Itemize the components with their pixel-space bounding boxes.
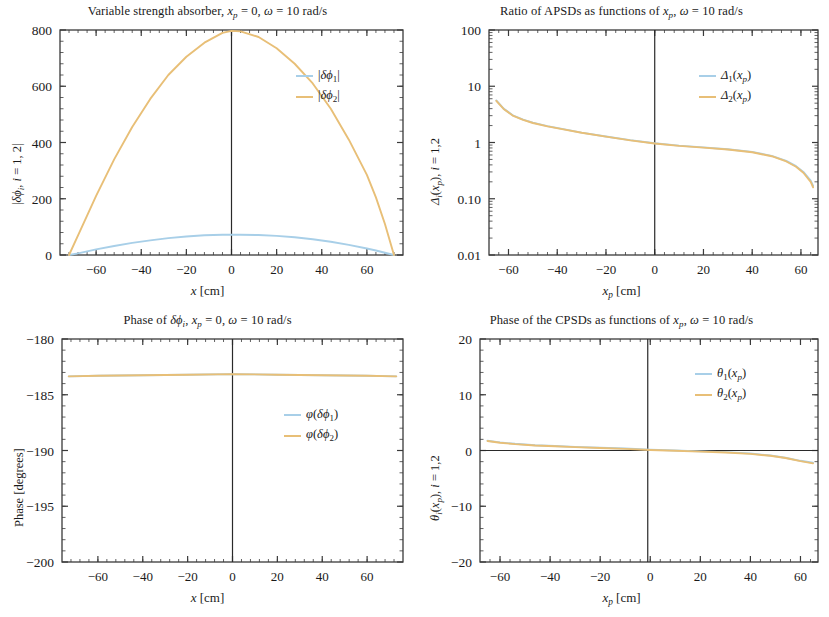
svg-text:800: 800 (32, 23, 53, 38)
svg-text:40: 40 (746, 262, 759, 277)
legend-label-series2: φ(δϕ2) (306, 425, 338, 445)
panel-bottom-right: Phase of the CPSDs as functions of xp, ω… (414, 309, 829, 617)
svg-text:−185: −185 (26, 388, 54, 403)
svg-text:0.01: 0.01 (457, 248, 481, 263)
legend-top-left: |δϕ1| |δϕ2| (296, 66, 340, 107)
legend-item: φ(δϕ2) (284, 425, 338, 445)
legend-item: Δ1(xp) (699, 66, 751, 86)
svg-text:200: 200 (32, 192, 53, 207)
svg-text:0.10: 0.10 (457, 192, 481, 207)
legend-item: |δϕ2| (296, 86, 340, 106)
legend-swatch-series1 (699, 75, 716, 77)
svg-text:−60: −60 (86, 262, 106, 277)
svg-text:−40: −40 (547, 262, 567, 277)
legend-bottom-left: φ(δϕ1) φ(δϕ2) (284, 405, 338, 446)
svg-text:40: 40 (315, 262, 328, 277)
legend-item: φ(δϕ1) (284, 405, 338, 425)
svg-text:0: 0 (651, 262, 658, 277)
svg-text:60: 60 (794, 262, 807, 277)
svg-text:100: 100 (461, 23, 482, 38)
svg-text:0: 0 (229, 569, 236, 584)
svg-text:1: 1 (474, 136, 481, 151)
svg-text:20: 20 (270, 262, 283, 277)
svg-text:−60: −60 (498, 262, 518, 277)
svg-text:0: 0 (465, 444, 472, 459)
legend-label-series1: Δ1(xp) (721, 66, 751, 86)
legend-swatch-series1 (284, 414, 301, 416)
panel-top-left: Variable strength absorber, xp = 0, ω = … (0, 0, 415, 310)
svg-text:40: 40 (316, 569, 329, 584)
svg-text:−40: −40 (540, 569, 560, 584)
svg-text:−190: −190 (26, 444, 54, 459)
svg-text:20: 20 (271, 569, 284, 584)
svg-text:0: 0 (45, 248, 52, 263)
svg-text:20: 20 (697, 262, 710, 277)
plot-canvas-top-right: −60−40−2002040600.010.10110100 (414, 0, 829, 310)
legend-label-series2: θ2(xp) (717, 384, 746, 404)
panel-bottom-left: Phase of δϕi, xp = 0, ω = 10 rad/s Phase… (0, 309, 415, 617)
legend-label-series2: |δϕ2| (318, 86, 340, 106)
plot-canvas-bottom-left: −60−40−200204060−200−195−190−185−180 (0, 309, 415, 617)
legend-item: |δϕ1| (296, 66, 340, 86)
svg-text:−20: −20 (590, 569, 610, 584)
svg-text:20: 20 (694, 569, 707, 584)
legend-label-series1: θ1(xp) (717, 364, 746, 384)
legend-swatch-series1 (695, 373, 712, 375)
plot-canvas-bottom-right: −60−40−200204060−20−1001020 (414, 309, 829, 617)
figure-grid: Variable strength absorber, xp = 0, ω = … (0, 0, 829, 617)
legend-swatch-series2 (695, 394, 712, 396)
legend-top-right: Δ1(xp) Δ2(xp) (699, 66, 751, 107)
svg-text:−195: −195 (26, 499, 54, 514)
svg-text:−180: −180 (26, 332, 54, 347)
legend-label-series2: Δ2(xp) (721, 86, 751, 106)
svg-text:−60: −60 (490, 569, 510, 584)
svg-text:−20: −20 (451, 555, 472, 570)
svg-text:60: 60 (361, 569, 374, 584)
svg-text:−20: −20 (596, 262, 616, 277)
plot-canvas-top-left: −60−40−2002040600200400600800 (0, 0, 415, 310)
svg-text:0: 0 (228, 262, 235, 277)
legend-bottom-right: θ1(xp) θ2(xp) (695, 364, 746, 405)
svg-text:60: 60 (360, 262, 373, 277)
svg-text:−20: −20 (176, 262, 196, 277)
svg-text:40: 40 (744, 569, 757, 584)
legend-swatch-series1 (296, 75, 313, 77)
legend-swatch-series2 (699, 96, 716, 98)
svg-text:20: 20 (459, 332, 473, 347)
svg-text:−20: −20 (177, 569, 197, 584)
svg-text:400: 400 (32, 136, 53, 151)
svg-text:0: 0 (647, 569, 654, 584)
svg-text:−10: −10 (451, 499, 472, 514)
svg-text:60: 60 (794, 569, 807, 584)
legend-item: θ2(xp) (695, 384, 746, 404)
legend-item: θ1(xp) (695, 364, 746, 384)
svg-text:−40: −40 (131, 262, 151, 277)
svg-text:10: 10 (459, 388, 473, 403)
svg-text:10: 10 (468, 79, 482, 94)
panel-top-right: Ratio of APSDs as functions of xp, ω = 1… (414, 0, 829, 310)
legend-label-series1: |δϕ1| (318, 66, 340, 86)
svg-text:−40: −40 (133, 569, 153, 584)
legend-item: Δ2(xp) (699, 86, 751, 106)
svg-text:600: 600 (32, 79, 53, 94)
legend-label-series1: φ(δϕ1) (306, 405, 338, 425)
svg-text:−60: −60 (88, 569, 108, 584)
legend-swatch-series2 (296, 96, 313, 98)
legend-swatch-series2 (284, 435, 301, 437)
svg-text:−200: −200 (26, 555, 54, 570)
